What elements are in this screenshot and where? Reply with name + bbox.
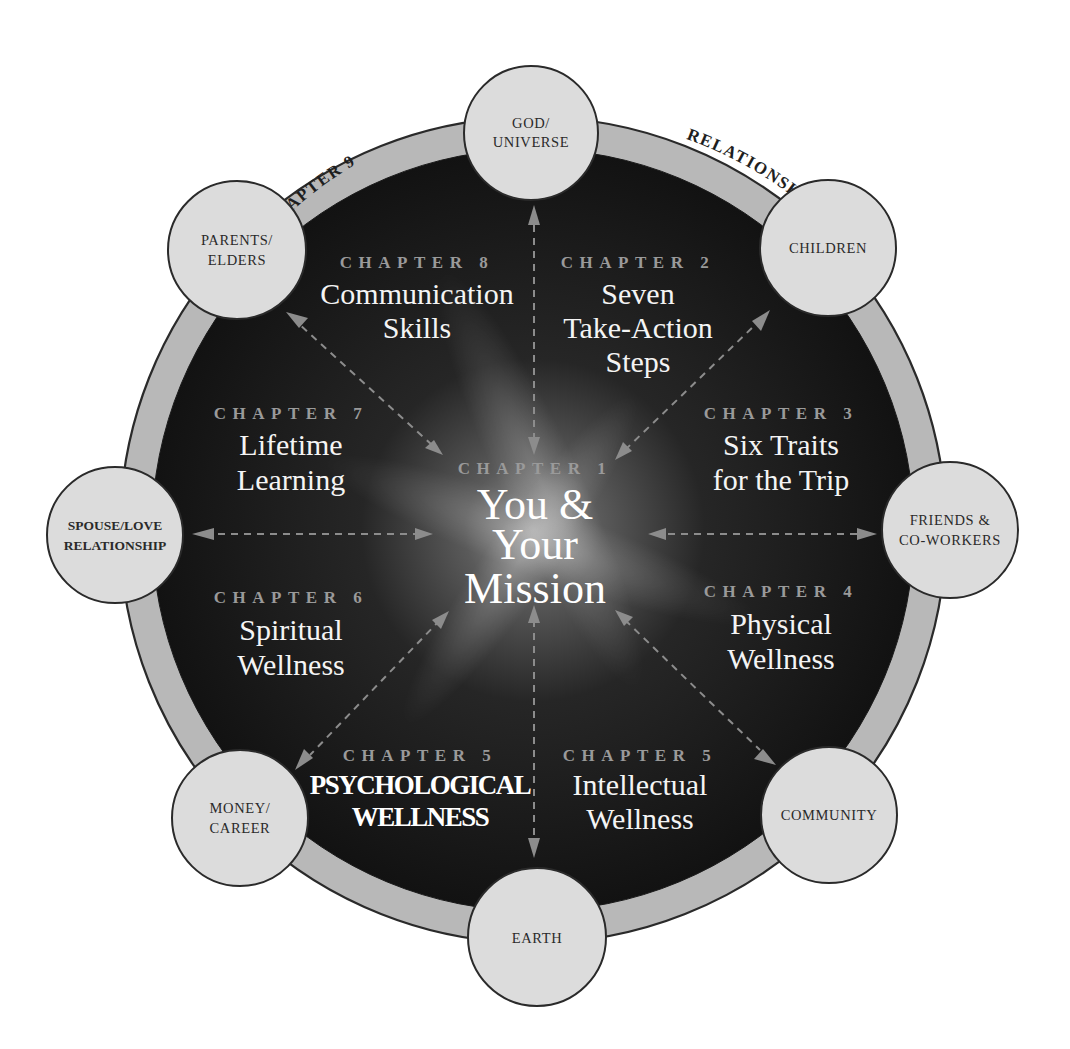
- svg-text:Take-Action: Take-Action: [563, 311, 713, 344]
- relationships-wheel-diagram: CHAPTER 9 RELATIONSHIPS: [0, 0, 1070, 1049]
- svg-text:CHAPTER 5: CHAPTER 5: [563, 746, 717, 765]
- svg-text:EARTH: EARTH: [512, 930, 562, 946]
- svg-text:PARENTS/: PARENTS/: [201, 232, 273, 248]
- svg-text:MONEY/: MONEY/: [210, 800, 271, 816]
- svg-text:PSYCHOLOGICAL: PSYCHOLOGICAL: [310, 770, 531, 800]
- svg-text:CHAPTER 3: CHAPTER 3: [704, 404, 858, 423]
- svg-text:Skills: Skills: [383, 311, 451, 344]
- svg-text:COMMUNITY: COMMUNITY: [781, 807, 877, 823]
- svg-text:CHAPTER 6: CHAPTER 6: [214, 588, 368, 607]
- svg-text:CHAPTER 5: CHAPTER 5: [343, 746, 497, 765]
- svg-text:Spiritual: Spiritual: [239, 613, 342, 646]
- svg-text:UNIVERSE: UNIVERSE: [493, 134, 570, 150]
- svg-text:Physical: Physical: [730, 607, 832, 640]
- svg-text:WELLNESS: WELLNESS: [352, 802, 489, 832]
- svg-text:GOD/: GOD/: [512, 115, 550, 131]
- satellite-parents-elders: PARENTS/ ELDERS: [168, 181, 306, 319]
- satellite-children: CHILDREN: [760, 180, 896, 316]
- svg-text:CHAPTER 8: CHAPTER 8: [340, 253, 494, 272]
- svg-text:Wellness: Wellness: [727, 642, 835, 675]
- svg-text:for the Trip: for the Trip: [713, 463, 850, 496]
- svg-text:CHAPTER 1: CHAPTER 1: [458, 459, 612, 478]
- svg-text:Mission: Mission: [464, 564, 606, 613]
- svg-text:SPOUSE/LOVE: SPOUSE/LOVE: [68, 518, 163, 533]
- svg-text:Steps: Steps: [605, 345, 670, 378]
- svg-text:Lifetime: Lifetime: [239, 428, 342, 461]
- svg-text:CHAPTER 7: CHAPTER 7: [214, 404, 368, 423]
- svg-text:CHAPTER 4: CHAPTER 4: [704, 582, 858, 601]
- svg-text:Your: Your: [492, 520, 578, 569]
- svg-text:CHILDREN: CHILDREN: [789, 240, 867, 256]
- svg-text:Intellectual: Intellectual: [573, 768, 708, 801]
- svg-text:Learning: Learning: [237, 463, 345, 496]
- svg-text:Seven: Seven: [601, 277, 674, 310]
- svg-text:CHAPTER 2: CHAPTER 2: [561, 253, 715, 272]
- svg-text:RELATIONSHIP: RELATIONSHIP: [64, 538, 167, 553]
- svg-text:CAREER: CAREER: [210, 820, 271, 836]
- svg-text:Wellness: Wellness: [586, 802, 694, 835]
- satellite-god-universe: GOD/ UNIVERSE: [464, 66, 598, 200]
- satellite-friends-coworkers: FRIENDS & CO-WORKERS: [882, 462, 1018, 598]
- svg-text:ELDERS: ELDERS: [208, 252, 266, 268]
- satellite-community: COMMUNITY: [761, 747, 897, 883]
- svg-text:FRIENDS &: FRIENDS &: [910, 512, 991, 528]
- svg-text:Wellness: Wellness: [237, 648, 345, 681]
- svg-text:Communication: Communication: [320, 277, 513, 310]
- svg-text:Six Traits: Six Traits: [723, 428, 839, 461]
- chapter-3-six-traits: CHAPTER 3 Six Traits for the Trip: [704, 404, 858, 496]
- satellite-spouse-love: SPOUSE/LOVE RELATIONSHIP: [47, 467, 183, 603]
- svg-text:CO-WORKERS: CO-WORKERS: [899, 532, 1001, 548]
- satellite-money-career: MONEY/ CAREER: [172, 750, 308, 886]
- satellite-earth: EARTH: [468, 868, 606, 1006]
